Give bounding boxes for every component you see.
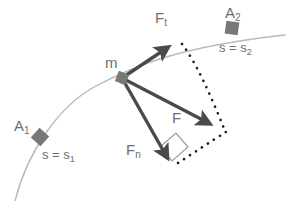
label-force-normal-subscript: n: [135, 149, 141, 160]
label-force-normal-base: F: [126, 141, 135, 158]
diagram-canvas: [0, 0, 286, 201]
label-point-a1-subscript: 1: [24, 125, 30, 136]
force-decomposition-diagram: m Ft F Fn A1 A2 s = s1 s = s2: [0, 0, 286, 201]
label-point-a1: A1: [14, 118, 30, 133]
label-arc-length-1-subscript: 1: [70, 154, 75, 164]
label-arc-length-1: s = s1: [42, 148, 75, 161]
vector-force-tangential: [122, 47, 168, 78]
label-arc-length-2-subscript: 2: [247, 47, 252, 57]
label-force-normal: Fn: [126, 142, 141, 157]
label-point-a2: A2: [225, 5, 241, 20]
label-point-a2-base: A: [225, 4, 235, 21]
right-angle-icon: [160, 133, 188, 161]
dotted-construction-line-tangential: [182, 44, 225, 131]
label-force-tangential: Ft: [155, 10, 167, 25]
label-arc-length-2-prefix: s = s: [219, 40, 247, 55]
label-force-tangential-subscript: t: [164, 17, 167, 28]
label-force-resultant: F: [172, 110, 181, 125]
label-point-a1-base: A: [14, 117, 24, 134]
label-mass-text: m: [105, 54, 118, 71]
dotted-construction-line-normal: [178, 132, 226, 163]
label-force-tangential-base: F: [155, 9, 164, 26]
label-point-a2-subscript: 2: [235, 12, 241, 23]
label-arc-length-2: s = s2: [219, 41, 252, 54]
marker-point-a1: [31, 128, 49, 146]
label-force-resultant-base: F: [172, 109, 181, 126]
label-arc-length-1-prefix: s = s: [42, 147, 70, 162]
label-mass: m: [105, 55, 118, 70]
